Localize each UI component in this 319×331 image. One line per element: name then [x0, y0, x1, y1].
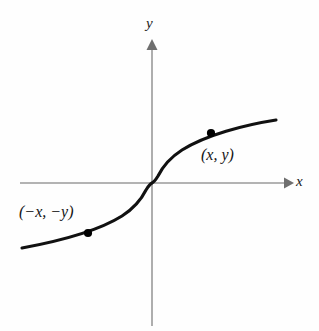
- graph-canvas: [0, 0, 319, 331]
- function-curve: [22, 120, 276, 248]
- odd-function-graph-figure: y x (x, y) (−x, −y): [0, 0, 319, 331]
- x-axis-label: x: [296, 174, 303, 189]
- y-axis-label: y: [146, 16, 153, 31]
- x-axis-arrow-icon: [284, 178, 294, 189]
- y-axis-arrow-icon: [147, 39, 158, 50]
- data-point-positive: [207, 129, 215, 137]
- point-label-negative: (−x, −y): [19, 204, 73, 220]
- point-label-positive: (x, y): [201, 147, 234, 163]
- data-point-negative: [84, 229, 92, 237]
